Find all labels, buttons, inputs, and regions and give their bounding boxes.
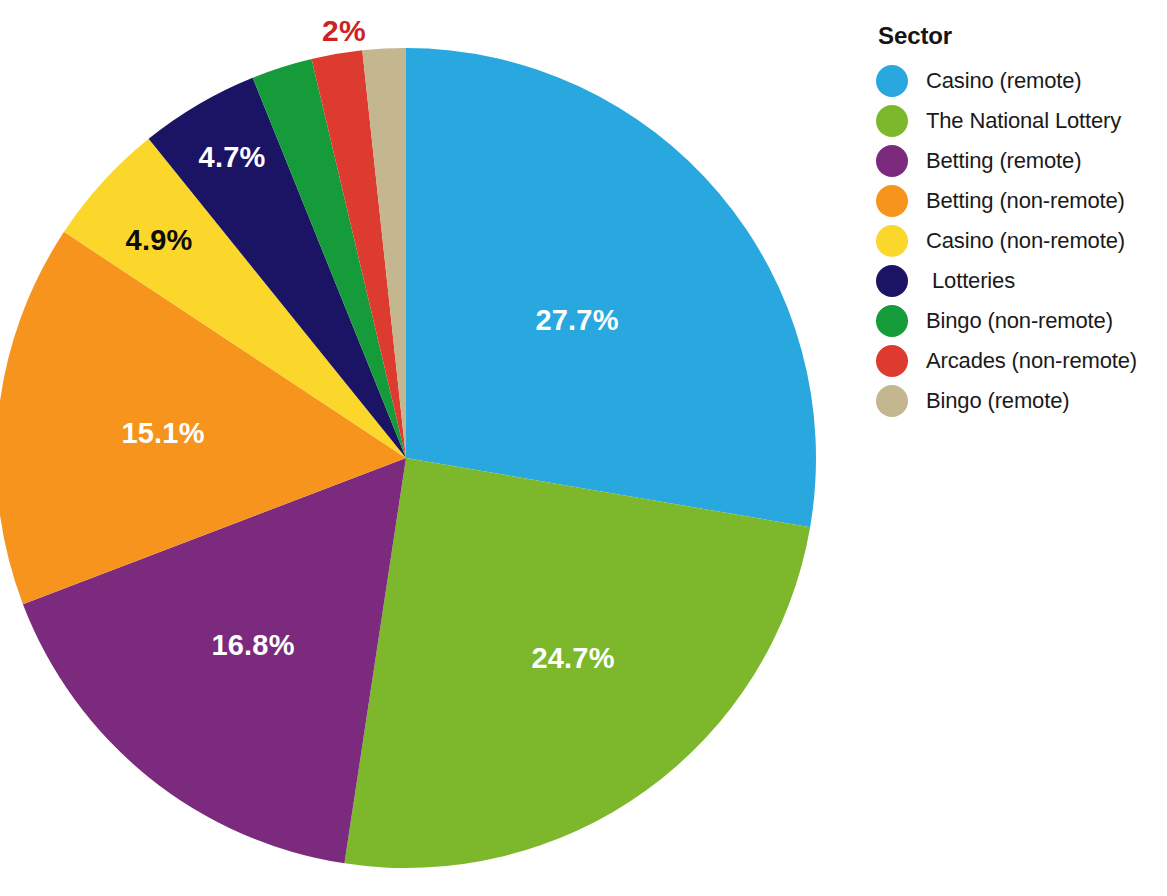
- legend-item[interactable]: Bingo (non-remote): [872, 301, 1167, 341]
- legend-color-swatch: [876, 345, 908, 377]
- legend-item[interactable]: Arcades (non-remote): [872, 341, 1167, 381]
- legend-item[interactable]: Betting (remote): [872, 141, 1167, 181]
- legend-item-list: Casino (remote)The National LotteryBetti…: [872, 61, 1167, 421]
- legend-color-swatch: [876, 265, 908, 297]
- legend-item-label: Casino (non-remote): [926, 228, 1125, 254]
- legend-title: Sector: [878, 22, 1167, 50]
- legend-color-swatch: [876, 385, 908, 417]
- legend-item-label: Arcades (non-remote): [926, 348, 1137, 374]
- legend-color-swatch: [876, 225, 908, 257]
- legend-item-label: Betting (remote): [926, 148, 1081, 174]
- legend-item[interactable]: The National Lottery: [872, 101, 1167, 141]
- legend-item-label: Casino (remote): [926, 68, 1081, 94]
- legend-item-label: Betting (non-remote): [926, 188, 1125, 214]
- pie-slice-group: [0, 48, 816, 868]
- legend-item[interactable]: Casino (remote): [872, 61, 1167, 101]
- legend-color-swatch: [876, 105, 908, 137]
- legend-color-swatch: [876, 145, 908, 177]
- pie-slice[interactable]: [344, 458, 810, 868]
- legend: Sector Casino (remote)The National Lotte…: [872, 22, 1167, 421]
- legend-item[interactable]: Lotteries: [872, 261, 1167, 301]
- pie-chart-figure: 27.7%24.7%16.8%15.1%4.9%4.7%2% Sector Ca…: [0, 0, 1167, 896]
- legend-color-swatch: [876, 185, 908, 217]
- pie-svg: [0, 0, 830, 896]
- legend-item[interactable]: Bingo (remote): [872, 381, 1167, 421]
- legend-item-label: Bingo (remote): [926, 388, 1069, 414]
- legend-item[interactable]: Casino (non-remote): [872, 221, 1167, 261]
- legend-color-swatch: [876, 65, 908, 97]
- legend-item-label: Bingo (non-remote): [926, 308, 1113, 334]
- legend-color-swatch: [876, 305, 908, 337]
- pie-chart-plot-area: 27.7%24.7%16.8%15.1%4.9%4.7%2%: [0, 0, 830, 896]
- legend-item[interactable]: Betting (non-remote): [872, 181, 1167, 221]
- legend-item-label: Lotteries: [932, 268, 1015, 294]
- pie-slice[interactable]: [406, 48, 816, 527]
- legend-item-label: The National Lottery: [926, 108, 1121, 134]
